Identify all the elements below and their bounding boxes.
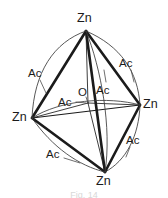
atom-label-zn-right: Zn bbox=[143, 98, 158, 111]
ligand-label-ac-upper-left: Ac bbox=[28, 68, 41, 80]
ligand-label-ac-center-right: Ac bbox=[96, 85, 109, 97]
leader-ac-center-left bbox=[76, 102, 86, 103]
atom-label-zn-left: Zn bbox=[12, 111, 27, 124]
ligand-label-ac-center-left: Ac bbox=[58, 97, 71, 109]
atom-label-oxygen-center: O bbox=[78, 87, 87, 99]
ligand-label-ac-upper-right: Ac bbox=[119, 58, 132, 70]
ligand-label-ac-lower-left: Ac bbox=[46, 149, 59, 161]
edge-zn-left-zn-right bbox=[32, 105, 140, 118]
leader-ac-lower-left bbox=[64, 158, 80, 163]
figure-caption: Fig. 14 bbox=[0, 191, 168, 198]
leader-ac-upper-left bbox=[40, 80, 46, 93]
atom-label-zn-top: Zn bbox=[77, 12, 92, 25]
atom-label-zn-bottom: Zn bbox=[96, 175, 111, 188]
figure-container: Zn Zn Zn Zn O Ac Ac Ac Ac Ac Ac Fig. 14 bbox=[0, 0, 168, 198]
leader-ac-center-right bbox=[104, 70, 106, 82]
ligand-label-ac-lower-right: Ac bbox=[126, 135, 139, 147]
